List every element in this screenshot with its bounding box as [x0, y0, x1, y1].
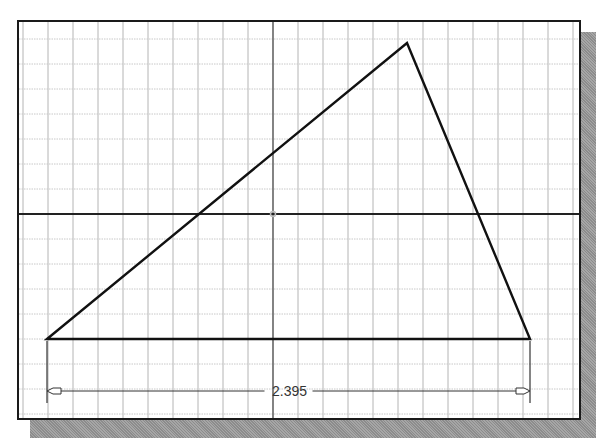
sketch-viewport[interactable]: 2.395: [17, 20, 581, 420]
sketch-canvas[interactable]: 2.395: [19, 22, 581, 420]
horizontal-dimension[interactable]: 2.395: [47, 341, 530, 403]
dimension-value[interactable]: 2.395: [272, 383, 307, 399]
triangle-sketch[interactable]: [47, 43, 530, 339]
grid-lines: [19, 22, 581, 420]
